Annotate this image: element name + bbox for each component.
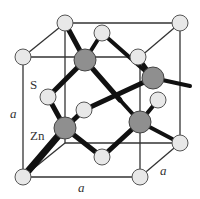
lattice-constant-bottom-label: a xyxy=(78,180,85,195)
sulfur-label: S xyxy=(30,77,37,92)
zinc-atoms xyxy=(54,49,164,139)
lattice-constant-vertical-label: a xyxy=(10,106,17,121)
zinc-blende-diagram: S Zn a a a xyxy=(0,0,200,199)
zinc-label: Zn xyxy=(30,128,45,143)
lattice-constant-depth-label: a xyxy=(160,163,167,178)
